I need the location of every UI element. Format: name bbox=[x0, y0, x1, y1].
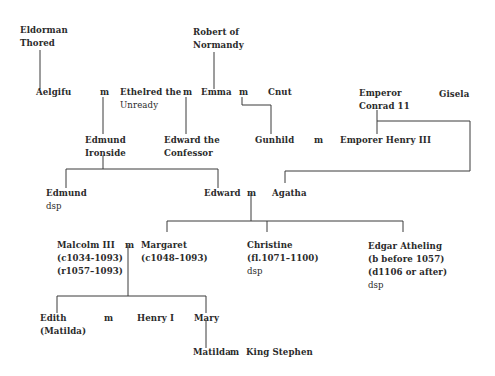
name-line: (c1034-1093) bbox=[57, 252, 123, 265]
person-agatha: Agatha bbox=[272, 187, 307, 200]
name-line: Edmund bbox=[46, 187, 87, 200]
name-line: (b before 1057) bbox=[368, 253, 447, 266]
person-gunhild: Gunhild bbox=[255, 134, 294, 147]
name-line: Gisela bbox=[439, 88, 469, 101]
person-matilda: Matilda bbox=[193, 346, 231, 359]
person-henry-i: Henry I bbox=[137, 312, 174, 325]
name-line: Agatha bbox=[272, 187, 307, 200]
person-margaret: Margaret (c1048–1093) bbox=[141, 239, 208, 265]
name-line: Ethelred the bbox=[120, 86, 181, 99]
marriage-edward-agatha: m bbox=[247, 187, 256, 200]
name-line: Edmund bbox=[85, 134, 126, 147]
person-edward-the-confessor: Edward the Confessor bbox=[164, 134, 220, 160]
name-line: Robert of bbox=[193, 26, 244, 39]
name-line: Edward bbox=[204, 187, 241, 200]
name-line: dsp bbox=[247, 265, 319, 278]
name-line: Emma bbox=[201, 86, 232, 99]
name-line: Emperor bbox=[359, 87, 410, 100]
name-line: Henry I bbox=[137, 312, 174, 325]
person-gisela: Gisela bbox=[439, 88, 469, 101]
name-line: Mary bbox=[194, 312, 219, 325]
name-line: Aelgifu bbox=[36, 86, 71, 99]
person-edmund-dsp: Edmund dsp bbox=[46, 187, 87, 213]
person-emporer-henry-iii: Emporer Henry III bbox=[340, 134, 431, 147]
person-edith-matilda: Edith (Matilda) bbox=[40, 312, 86, 338]
name-line: Ironside bbox=[85, 147, 126, 160]
person-edward: Edward bbox=[204, 187, 241, 200]
name-line: Confessor bbox=[164, 147, 220, 160]
person-ethelred-the-unready: Ethelred the Unready bbox=[120, 86, 181, 112]
person-edmund-ironside: Edmund Ironside bbox=[85, 134, 126, 160]
name-line: Unready bbox=[120, 99, 181, 112]
line-edward-agatha-children bbox=[167, 221, 403, 232]
name-line: Cnut bbox=[268, 86, 292, 99]
marriage-edith-henry1: m bbox=[104, 312, 113, 325]
name-line: Conrad 11 bbox=[359, 100, 410, 113]
name-line: Eldorman bbox=[20, 24, 68, 37]
name-line: (Matilda) bbox=[40, 325, 86, 338]
name-line: Malcolm III bbox=[57, 239, 123, 252]
name-line: dsp bbox=[46, 200, 87, 213]
name-line: (d1106 or after) bbox=[368, 266, 447, 279]
name-line: Thored bbox=[20, 37, 68, 50]
name-line: Normandy bbox=[193, 39, 244, 52]
marriage-ethelred-emma: m bbox=[183, 86, 192, 99]
line-emma-cnut-children bbox=[242, 97, 271, 134]
name-line: (fl.1071–1100) bbox=[247, 252, 319, 265]
name-line: (r1057–1093) bbox=[57, 265, 123, 278]
person-eldorman-thored: Eldorman Thored bbox=[20, 24, 68, 50]
name-line: Edith bbox=[40, 312, 86, 325]
marriage-gunhild-henry3: m bbox=[314, 134, 323, 147]
person-aelgifu: Aelgifu bbox=[36, 86, 71, 99]
name-line: Christine bbox=[247, 239, 319, 252]
person-emma: Emma bbox=[201, 86, 232, 99]
name-line: Edgar Atheling bbox=[368, 240, 447, 253]
name-line: Gunhild bbox=[255, 134, 294, 147]
person-malcolm-iii: Malcolm III (c1034-1093) (r1057–1093) bbox=[57, 239, 123, 278]
line-malcolm-margaret-children bbox=[57, 296, 206, 313]
person-edgar-atheling: Edgar Atheling (b before 1057) (d1106 or… bbox=[368, 240, 447, 292]
name-line: dsp bbox=[368, 279, 447, 292]
marriage-aelgifu-ethelred: m bbox=[100, 86, 109, 99]
person-christine: Christine (fl.1071–1100) dsp bbox=[247, 239, 319, 278]
person-emperor-conrad: Emperor Conrad 11 bbox=[359, 87, 410, 113]
person-king-stephen: King Stephen bbox=[246, 346, 313, 359]
name-line: Margaret bbox=[141, 239, 208, 252]
marriage-matilda-stephen: m bbox=[230, 346, 239, 359]
name-line: Emporer Henry III bbox=[340, 134, 431, 147]
name-line: (c1048–1093) bbox=[141, 252, 208, 265]
person-mary: Mary bbox=[194, 312, 219, 325]
marriage-emma-cnut: m bbox=[239, 86, 248, 99]
line-ironside-children bbox=[66, 169, 218, 188]
person-robert-of-normandy: Robert of Normandy bbox=[193, 26, 244, 52]
marriage-malcolm-margaret: m bbox=[125, 239, 134, 252]
name-line: Edward the bbox=[164, 134, 220, 147]
name-line: Matilda bbox=[193, 346, 231, 359]
name-line: King Stephen bbox=[246, 346, 313, 359]
family-tree-diagram: Eldorman Thored Robert of Normandy Aelgi… bbox=[0, 0, 495, 376]
person-cnut: Cnut bbox=[268, 86, 292, 99]
